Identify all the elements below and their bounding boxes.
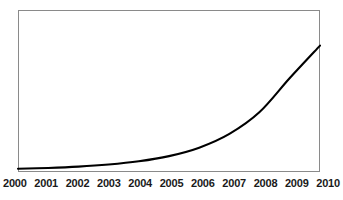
x-tick-2007: 2007 <box>222 176 246 192</box>
x-tick-2010: 2010 <box>316 176 340 192</box>
x-tick-2006: 2006 <box>191 176 215 192</box>
x-axis-tick-labels: 2000 2001 2002 2003 2004 2005 2006 2007 … <box>0 176 343 192</box>
series-line-exponential-growth <box>18 46 320 169</box>
x-tick-2003: 2003 <box>97 176 121 192</box>
x-tick-2005: 2005 <box>160 176 184 192</box>
x-tick-2001: 2001 <box>34 176 58 192</box>
exponential-curve-plot <box>18 10 320 172</box>
x-tick-2002: 2002 <box>66 176 90 192</box>
x-tick-2008: 2008 <box>254 176 278 192</box>
x-tick-2000: 2000 <box>3 176 27 192</box>
x-tick-2009: 2009 <box>285 176 309 192</box>
x-tick-2004: 2004 <box>128 176 152 192</box>
chart-container: 2000 2001 2002 2003 2004 2005 2006 2007 … <box>0 0 343 200</box>
